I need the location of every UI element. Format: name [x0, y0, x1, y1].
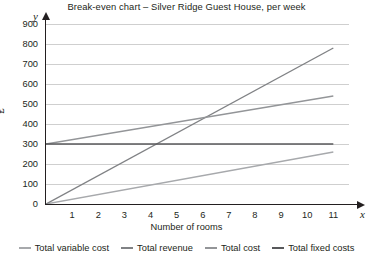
- x-axis-tick-label: 6: [193, 211, 213, 220]
- y-axis-tick-label: 700: [4, 60, 38, 69]
- y-axis-tick-label: 600: [4, 80, 38, 89]
- legend-label: Total revenue: [137, 243, 193, 253]
- y-axis-tick-label: 100: [4, 180, 38, 189]
- x-axis-tick-label: 7: [219, 211, 239, 220]
- legend-item[interactable]: Total revenue: [121, 243, 193, 253]
- chart-legend: Total variable costTotal revenueTotal co…: [0, 243, 373, 253]
- legend-swatch-icon: [121, 247, 133, 249]
- legend-label: Total cost: [221, 243, 260, 253]
- y-axis-tick-label: 300: [4, 140, 38, 149]
- x-axis-tick-label: 5: [167, 211, 187, 220]
- x-axis-line: [45, 204, 358, 205]
- break-even-chart: Break-even chart – Silver Ridge Guest Ho…: [0, 0, 373, 262]
- legend-swatch-icon: [272, 247, 284, 249]
- y-axis-arrow-icon: [42, 12, 50, 20]
- x-axis-tick-label: 8: [245, 211, 265, 220]
- legend-item[interactable]: Total cost: [205, 243, 260, 253]
- legend-label: Total variable cost: [35, 243, 109, 253]
- y-axis-title: £: [0, 108, 6, 113]
- x-axis-tick-label: 3: [114, 211, 134, 220]
- x-axis-tick-label: 4: [140, 211, 160, 220]
- legend-item[interactable]: Total fixed costs: [272, 243, 354, 253]
- series-layer: [46, 24, 349, 204]
- x-axis-tick-label: 10: [297, 211, 317, 220]
- series-line: [46, 96, 333, 144]
- x-axis-tick-label: 1: [62, 211, 82, 220]
- y-axis-tick-label: 200: [4, 160, 38, 169]
- series-line: [46, 48, 333, 204]
- legend-label: Total fixed costs: [288, 243, 354, 253]
- legend-swatch-icon: [205, 247, 217, 249]
- x-axis-variable-label: x: [360, 208, 365, 220]
- legend-item[interactable]: Total variable cost: [19, 243, 109, 253]
- y-axis-tick-label: 400: [4, 120, 38, 129]
- chart-title: Break-even chart – Silver Ridge Guest Ho…: [0, 1, 373, 12]
- y-axis-tick-label: 800: [4, 40, 38, 49]
- legend-swatch-icon: [19, 247, 31, 249]
- series-line: [46, 152, 333, 204]
- y-axis-tick-label: 500: [4, 100, 38, 109]
- y-axis-tick-label: 900: [4, 20, 38, 29]
- x-axis-title: Number of rooms: [0, 222, 373, 232]
- x-axis-tick-label: 11: [323, 211, 343, 220]
- x-axis-tick-label: 2: [88, 211, 108, 220]
- x-axis-tick-label: 9: [271, 211, 291, 220]
- y-axis-tick-label: 0: [4, 200, 38, 209]
